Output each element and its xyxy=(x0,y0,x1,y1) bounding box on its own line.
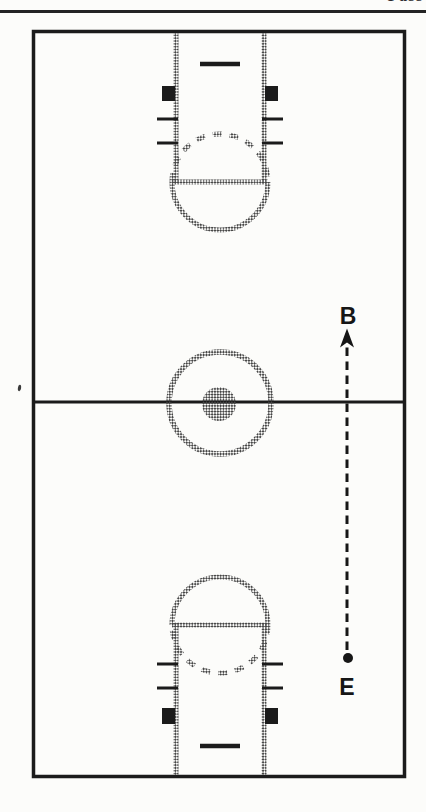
label-passer-e: E xyxy=(339,674,354,700)
top-block-left xyxy=(162,86,175,101)
top-ft-circle-dashed-half xyxy=(172,134,268,182)
top-block-right xyxy=(265,86,278,101)
book-page: Pass xyxy=(0,0,426,812)
bottom-block-left xyxy=(162,708,175,724)
top-key xyxy=(157,33,283,230)
center-jump-dot xyxy=(202,387,236,421)
bottom-ft-circle-solid-half xyxy=(172,577,268,625)
bottom-ft-circle-dashed-half xyxy=(172,625,268,673)
pass-play: B E xyxy=(339,303,356,700)
court-diagram: B E xyxy=(0,0,426,812)
label-receiver-b: B xyxy=(340,303,357,329)
top-ft-circle-solid-half xyxy=(172,182,268,230)
bottom-block-right xyxy=(265,708,278,724)
player-e-dot xyxy=(343,653,353,663)
bottom-key xyxy=(157,577,283,775)
stray-ink-mark xyxy=(17,385,21,392)
pass-arrowhead xyxy=(340,329,354,348)
